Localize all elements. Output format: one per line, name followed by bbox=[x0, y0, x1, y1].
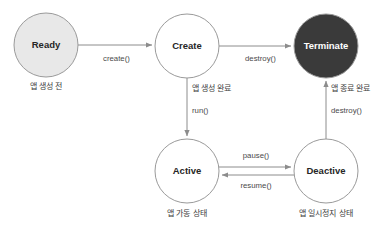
edge-label-destroy-bottom: destroy() bbox=[331, 106, 362, 115]
edge-active-to-deactive: pause() bbox=[219, 151, 291, 167]
node-create-label: Create bbox=[172, 40, 202, 51]
state-diagram-svg: create() destroy() 앱 생성 완료 run() 앱 종료 완료… bbox=[0, 0, 389, 228]
node-terminate[interactable]: Terminate bbox=[294, 14, 358, 78]
edge-caption-app-terminated: 앱 종료 완료 bbox=[331, 84, 370, 93]
node-active-label: Active bbox=[173, 165, 202, 176]
node-deactive-label: Deactive bbox=[306, 165, 345, 176]
edge-label-resume: resume() bbox=[240, 181, 272, 190]
node-ready[interactable]: Ready 앱 생성 전 bbox=[14, 13, 78, 91]
edge-label-run: run() bbox=[192, 106, 209, 115]
edge-caption-app-created: 앱 생성 완료 bbox=[192, 83, 231, 93]
edge-deactive-to-active: resume() bbox=[222, 175, 294, 190]
edge-deactive-to-terminate: 앱 종료 완료 destroy() bbox=[326, 81, 370, 139]
edge-ready-to-create: create() bbox=[78, 45, 152, 63]
edge-label-destroy-top: destroy() bbox=[245, 54, 276, 63]
node-ready-label: Ready bbox=[32, 39, 61, 50]
nodes-layer: Ready 앱 생성 전 Create Terminate Active 앱 가… bbox=[14, 13, 358, 218]
node-terminate-label: Terminate bbox=[304, 40, 349, 51]
node-active-caption: 앱 가동 상태 bbox=[167, 208, 206, 218]
state-diagram-canvas: create() destroy() 앱 생성 완료 run() 앱 종료 완료… bbox=[0, 0, 389, 228]
edge-label-create: create() bbox=[103, 54, 130, 63]
node-deactive[interactable]: Deactive 앱 일시정지 상태 bbox=[294, 139, 358, 218]
edge-create-to-terminate: destroy() bbox=[219, 46, 291, 63]
node-ready-caption: 앱 생성 전 bbox=[30, 81, 62, 91]
edge-create-to-active: 앱 생성 완료 run() bbox=[187, 78, 231, 136]
node-active[interactable]: Active 앱 가동 상태 bbox=[155, 139, 219, 218]
edge-label-pause: pause() bbox=[243, 151, 270, 160]
node-deactive-caption: 앱 일시정지 상태 bbox=[299, 208, 352, 218]
node-create[interactable]: Create bbox=[155, 14, 219, 78]
